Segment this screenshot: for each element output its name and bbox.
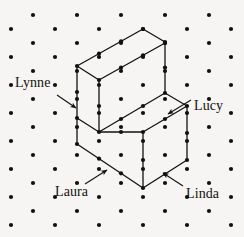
lattice-dot — [229, 139, 233, 143]
edge-dot — [141, 53, 145, 57]
edge-dot — [163, 41, 167, 45]
edge-top-face-front-left — [77, 66, 99, 80]
lattice-dot — [141, 223, 145, 227]
lattice-dot — [31, 13, 35, 17]
edge-top-face-back-right — [143, 29, 165, 42]
edge-dot — [75, 64, 79, 68]
lattice-dot — [229, 83, 233, 87]
lattice-dot — [75, 209, 79, 213]
lattice-dot — [97, 223, 101, 227]
lattice-dot — [31, 181, 35, 185]
lattice-dot — [31, 125, 35, 129]
lattice-dot — [163, 125, 167, 129]
edge-dot — [163, 91, 167, 95]
lattice-dot — [185, 167, 189, 171]
lattice-dot — [119, 125, 123, 129]
lattice-dot — [185, 223, 189, 227]
lattice-dot — [119, 209, 123, 213]
lattice-dot — [207, 69, 211, 73]
edge-step-left-edge — [77, 118, 99, 132]
isometric-drawing — [0, 0, 244, 237]
edge-dot — [185, 158, 189, 162]
edge-dot — [141, 130, 145, 134]
lattice-dot — [31, 209, 35, 213]
edge-dot — [141, 27, 145, 31]
edge-dot — [97, 130, 101, 134]
lattice-dot — [97, 27, 101, 31]
lattice-dot — [9, 167, 13, 171]
label-lucy: Lucy — [194, 99, 223, 113]
lattice-dot — [119, 153, 123, 157]
lattice-dot — [31, 97, 35, 101]
lattice-dot — [229, 55, 233, 59]
lattice-dot — [229, 195, 233, 199]
edge-dot — [75, 90, 79, 94]
lattice-dot — [185, 83, 189, 87]
lattice-dot — [97, 139, 101, 143]
edge-dot — [97, 157, 101, 161]
edge-dot — [141, 158, 145, 162]
lattice-dot — [9, 195, 13, 199]
edge-dot — [97, 78, 101, 82]
label-laura: Laura — [55, 185, 88, 199]
edge-dot — [119, 171, 123, 175]
lattice-dot — [75, 153, 79, 157]
edge-dot — [119, 39, 123, 43]
edge-dot — [97, 104, 101, 108]
lattice-dot — [53, 139, 57, 143]
lattice-dot — [141, 111, 145, 115]
lattice-dot — [229, 111, 233, 115]
lattice-dot — [141, 195, 145, 199]
lattice-dot — [53, 111, 57, 115]
edge-dot — [97, 52, 101, 56]
lattice-dot — [9, 27, 13, 31]
lattice-dot — [207, 153, 211, 157]
lattice-dot — [229, 167, 233, 171]
lattice-dot — [75, 41, 79, 45]
lattice-dot — [53, 223, 57, 227]
lattice-dot — [163, 97, 167, 101]
label-linda: Linda — [186, 187, 219, 201]
lattice-dot — [97, 195, 101, 199]
edge-dot — [163, 117, 167, 121]
lattice-dot — [207, 13, 211, 17]
lattice-dot — [31, 41, 35, 45]
edge-step-top-right — [99, 93, 165, 132]
lattice-dot — [75, 13, 79, 17]
edge-dot — [75, 142, 79, 146]
lattice-dot — [163, 181, 167, 185]
lattice-dot — [163, 209, 167, 213]
lattice-dot — [119, 13, 123, 17]
lattice-dot — [185, 55, 189, 59]
lattice-dot — [9, 111, 13, 115]
edge-dot — [163, 65, 167, 69]
figure-canvas: Lynne Lucy Laura Linda — [0, 0, 244, 237]
edge-dot — [119, 117, 123, 121]
lattice-dot — [185, 27, 189, 31]
lattice-dot — [9, 223, 13, 227]
lattice-dot — [53, 27, 57, 31]
lattice-dot — [207, 181, 211, 185]
edge-dot — [141, 186, 145, 190]
lattice-dot — [119, 181, 123, 185]
arrow-laura — [85, 170, 107, 184]
lattice-dot — [207, 41, 211, 45]
lattice-dot — [229, 223, 233, 227]
edge-dot — [119, 66, 123, 70]
edge-dot — [141, 104, 145, 108]
lattice-dot — [163, 13, 167, 17]
lattice-dot — [9, 55, 13, 59]
edge-dot — [185, 104, 189, 108]
edge-dot — [75, 116, 79, 120]
lattice-dot — [207, 125, 211, 129]
lattice-dot — [9, 83, 13, 87]
solid-edges — [77, 29, 187, 188]
lattice-dot — [141, 83, 145, 87]
lattice-dot — [53, 55, 57, 59]
lattice-dot — [31, 153, 35, 157]
lattice-dot — [97, 167, 101, 171]
lattice-dot — [53, 167, 57, 171]
edge-dot — [119, 130, 123, 134]
lattice-dot — [53, 83, 57, 87]
lattice-dot — [229, 27, 233, 31]
